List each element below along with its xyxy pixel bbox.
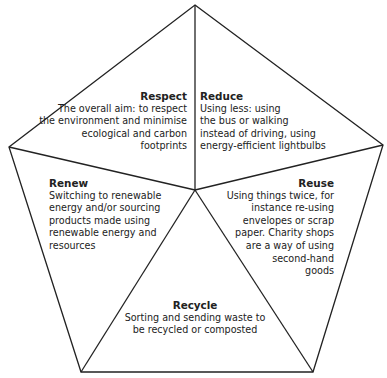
- section-respect: Respect The overall aim: to respect the …: [37, 90, 192, 153]
- section-title-renew: Renew: [49, 177, 189, 190]
- section-text-respect: The overall aim: to respect the environm…: [37, 103, 187, 153]
- section-recycle: Recycle Sorting and sending waste to be …: [115, 299, 275, 337]
- section-title-recycle: Recycle: [115, 299, 275, 312]
- section-renew: Renew Switching to renewable energy and/…: [49, 177, 189, 253]
- section-title-reuse: Reuse: [194, 177, 334, 190]
- section-text-reduce: Using less: using the bus or walking ins…: [200, 103, 350, 153]
- section-text-reuse: Using things twice, for instance re-usin…: [194, 190, 334, 278]
- section-text-renew: Switching to renewable energy and/or sou…: [49, 190, 189, 253]
- section-text-recycle: Sorting and sending waste to be recycled…: [115, 312, 275, 337]
- section-reuse: Reuse Using things twice, for instance r…: [194, 177, 334, 278]
- section-title-respect: Respect: [37, 90, 187, 103]
- section-reduce: Reduce Using less: using the bus or walk…: [200, 90, 350, 153]
- section-title-reduce: Reduce: [200, 90, 350, 103]
